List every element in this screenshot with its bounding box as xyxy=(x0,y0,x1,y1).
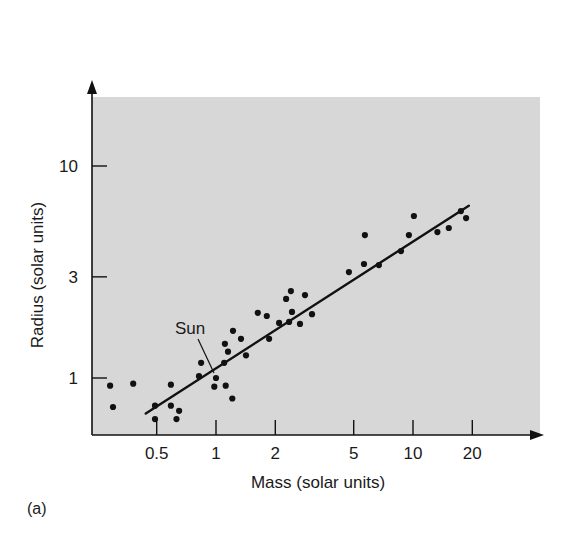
mass-radius-chart: 0.512510201310 Sun Mass (solar units) Ra… xyxy=(0,0,573,545)
data-point xyxy=(130,381,136,387)
data-point xyxy=(198,360,204,366)
y-tick-label: 1 xyxy=(69,369,78,388)
data-point xyxy=(302,292,308,298)
data-point xyxy=(362,232,368,238)
data-point xyxy=(229,395,235,401)
data-point xyxy=(266,336,272,342)
x-tick-label: 5 xyxy=(349,444,358,463)
data-point xyxy=(221,360,227,366)
panel-label: (a) xyxy=(27,500,47,518)
data-point xyxy=(238,336,244,342)
data-point xyxy=(286,319,292,325)
data-point xyxy=(264,313,270,319)
data-point xyxy=(283,296,289,302)
data-point xyxy=(222,341,228,347)
data-point xyxy=(309,311,315,317)
data-point xyxy=(406,232,412,238)
data-point xyxy=(411,213,417,219)
data-point xyxy=(213,375,219,381)
x-axis-title: Mass (solar units) xyxy=(251,473,385,492)
x-tick-label: 1 xyxy=(211,444,220,463)
data-point xyxy=(152,403,158,409)
sun-label: Sun xyxy=(175,319,205,338)
data-point xyxy=(243,352,249,358)
data-point xyxy=(297,321,303,327)
data-point xyxy=(361,261,367,267)
data-point xyxy=(225,349,231,355)
data-point xyxy=(110,404,116,410)
data-point xyxy=(223,383,229,389)
x-tick-label: 0.5 xyxy=(145,444,169,463)
y-tick-label: 3 xyxy=(69,268,78,287)
x-tick-label: 10 xyxy=(404,444,423,463)
data-point xyxy=(376,262,382,268)
x-tick-label: 2 xyxy=(271,444,280,463)
data-point xyxy=(446,225,452,231)
data-point xyxy=(255,310,261,316)
data-point xyxy=(434,229,440,235)
x-tick-label: 20 xyxy=(463,444,482,463)
plot-area xyxy=(92,97,540,435)
y-axis-arrow-icon xyxy=(87,80,97,94)
y-tick-label: 10 xyxy=(59,157,78,176)
data-point xyxy=(346,269,352,275)
data-point xyxy=(168,403,174,409)
data-point xyxy=(196,373,202,379)
data-point xyxy=(398,248,404,254)
data-point xyxy=(152,416,158,422)
data-point xyxy=(288,288,294,294)
data-point xyxy=(211,384,217,390)
data-point xyxy=(463,215,469,221)
data-point xyxy=(176,408,182,414)
data-point xyxy=(276,320,282,326)
data-point xyxy=(230,328,236,334)
y-axis-title: Radius (solar units) xyxy=(28,202,47,348)
data-point xyxy=(173,416,179,422)
data-point xyxy=(168,382,174,388)
data-point xyxy=(289,309,295,315)
data-point xyxy=(107,383,113,389)
data-point xyxy=(458,208,464,214)
